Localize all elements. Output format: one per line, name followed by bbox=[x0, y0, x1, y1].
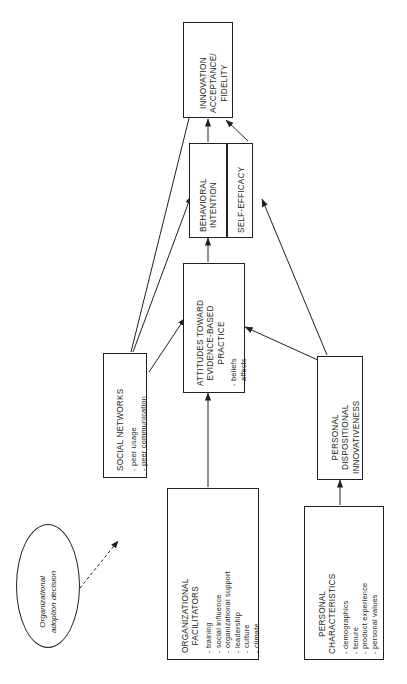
attitudes-line-2: EVIDENCE-BASED bbox=[206, 305, 215, 380]
node-orgfac-title: ORGANIZATIONAL FACILITATORS bbox=[181, 578, 202, 653]
attitudes-line-3: PRACTICE bbox=[217, 321, 226, 364]
node-self-efficacy[interactable]: SELF-EFFICACY bbox=[227, 143, 253, 238]
innovation-line-3: FIDELITY bbox=[220, 64, 229, 102]
edge-adoption-decision-dashed bbox=[80, 541, 118, 588]
node-behavioral-label: BEHAVIORAL INTENTION bbox=[199, 178, 220, 232]
node-personal-characteristics[interactable]: PERSONAL CHARACTERISTICS - demographics … bbox=[304, 506, 384, 660]
node-pc-bullets: - demographics - tenure - product experi… bbox=[341, 583, 379, 654]
pc-bullet-1: - demographics bbox=[341, 600, 350, 654]
adoption-decision-line-2: adoption decision bbox=[49, 571, 58, 633]
pc-bullet-2: - tenure bbox=[351, 627, 360, 654]
node-organizational-adoption-decision[interactable]: Organizational adoption decision bbox=[16, 524, 80, 648]
node-attitudes-bullets: - beliefs - affects bbox=[229, 358, 248, 386]
edge-social-to-attitudes bbox=[149, 318, 185, 372]
node-pc-title: PERSONAL CHARACTERISTICS bbox=[318, 574, 339, 654]
node-orgfac-bullets: - training - social influence - organiza… bbox=[204, 571, 262, 653]
node-pdi-title: PERSONAL DISPOSITIONAL INNOVATIVENESS bbox=[331, 401, 362, 474]
attitudes-bullet-2: - affects bbox=[239, 358, 248, 386]
orgfac-line-2: FACILITATORS bbox=[191, 586, 200, 645]
node-social-title: SOCIAL NETWORKS bbox=[116, 389, 126, 471]
behavioral-line-1: BEHAVIORAL bbox=[199, 178, 208, 232]
node-innovation-label: INNOVATION ACCEPTANCE/ FIDELITY bbox=[199, 53, 230, 113]
social-line-1: SOCIAL NETWORKS bbox=[116, 389, 125, 471]
edge-pdi-to-selfefficacy bbox=[262, 199, 327, 355]
node-social-bullets: - peer usage - peer communication bbox=[129, 396, 148, 471]
node-innovation-acceptance-fidelity[interactable]: INNOVATION ACCEPTANCE/ FIDELITY bbox=[183, 22, 233, 118]
edge-pdi-to-attitudes bbox=[245, 327, 320, 361]
innovation-line-1: INNOVATION bbox=[199, 57, 208, 109]
attitudes-bullet-1: - beliefs bbox=[229, 358, 238, 386]
pdi-line-2: DISPOSITIONAL bbox=[341, 405, 350, 470]
pdi-line-3: INNOVATIVENESS bbox=[352, 401, 361, 474]
node-behavioral-intention[interactable]: BEHAVIORAL INTENTION bbox=[189, 143, 227, 238]
orgfac-line-1: ORGANIZATIONAL bbox=[181, 578, 190, 653]
social-bullet-2: - peer communication bbox=[139, 396, 148, 471]
node-social-networks[interactable]: SOCIAL NETWORKS - peer usage - peer comm… bbox=[103, 353, 147, 478]
orgfac-bullet-3: - organizational support bbox=[223, 571, 232, 653]
orgfac-bullet-5: - culture bbox=[242, 625, 251, 654]
social-bullet-1: - peer usage bbox=[129, 427, 138, 471]
orgfac-bullet-6: - climate bbox=[252, 623, 261, 653]
pc-line-1: PERSONAL bbox=[318, 591, 327, 637]
node-personal-dispositional-innovativeness[interactable]: PERSONAL DISPOSITIONAL INNOVATIVENESS bbox=[317, 356, 363, 480]
adoption-decision-line-1: Organizational bbox=[38, 576, 47, 628]
node-attitudes-title: ATTITUDES TOWARD EVIDENCE-BASED PRACTICE bbox=[196, 300, 227, 386]
node-attitudes-toward-evidence-based-practice[interactable]: ATTITUDES TOWARD EVIDENCE-BASED PRACTICE… bbox=[183, 263, 245, 393]
orgfac-bullet-1: - training bbox=[204, 622, 213, 653]
diagram-canvas: INNOVATION ACCEPTANCE/ FIDELITY BEHAVIOR… bbox=[0, 0, 407, 684]
innovation-line-2: ACCEPTANCE/ bbox=[209, 53, 218, 113]
orgfac-bullet-2: - social influence bbox=[214, 594, 223, 653]
edge-selfefficacy-to-innovation bbox=[226, 120, 248, 141]
selfefficacy-line-1: SELF-EFFICACY bbox=[237, 167, 246, 233]
node-organizational-facilitators[interactable]: ORGANIZATIONAL FACILITATORS - training -… bbox=[167, 488, 259, 660]
attitudes-line-1: ATTITUDES TOWARD bbox=[196, 300, 205, 386]
pc-bullet-4: - personal values bbox=[370, 594, 379, 654]
behavioral-line-2: INTENTION bbox=[209, 182, 218, 228]
pdi-line-1: PERSONAL bbox=[331, 414, 340, 460]
node-adoption-decision-label: Organizational adoption decision bbox=[38, 571, 59, 633]
node-selfefficacy-label: SELF-EFFICACY bbox=[237, 167, 247, 233]
pc-bullet-3: - product experience bbox=[360, 583, 369, 654]
pc-line-2: CHARACTERISTICS bbox=[328, 574, 337, 654]
orgfac-bullet-4: - leadership bbox=[233, 612, 242, 653]
